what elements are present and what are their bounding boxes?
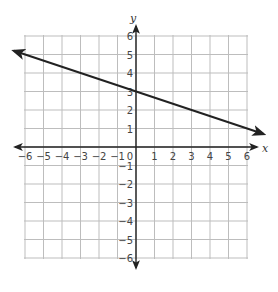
x-tick-label: −2 [92,151,107,162]
y-tick-label: 1 [127,124,133,135]
y-tick-label: −4 [118,216,133,227]
y-tick-label: −2 [118,179,133,190]
x-tick-label: 2 [170,151,176,162]
coordinate-plane: −6−5−4−3−2−10123456654321−1−2−3−4−5−6 x … [0,0,278,292]
data-line [14,51,264,134]
y-tick-label: −1 [118,161,133,172]
x-tick-label: 3 [188,151,194,162]
y-axis-label: y [129,12,137,25]
y-tick-label: −6 [118,253,133,264]
x-axis-label: x [262,142,269,155]
x-tick-label: 5 [225,151,231,162]
x-tick-label: 1 [151,151,157,162]
x-tick-label: 4 [207,151,213,162]
y-tick-label: 5 [127,50,133,61]
y-tick-label: 2 [127,105,133,116]
x-tick-label: −4 [55,151,70,162]
y-tick-label: −5 [118,235,133,246]
x-tick-label: −5 [36,151,51,162]
y-tick-label: 4 [127,68,133,79]
x-tick-label: −6 [18,151,33,162]
y-tick-label: 6 [127,31,133,42]
y-tick-label: −3 [118,198,133,209]
x-tick-label: −3 [73,151,88,162]
x-tick-label: 6 [244,151,250,162]
